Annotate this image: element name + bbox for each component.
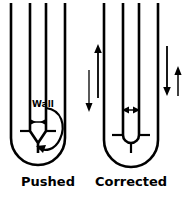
flow-arrow-up-left-head bbox=[94, 44, 102, 53]
panel-pushed: Wall Pushed bbox=[11, 3, 75, 189]
corrected-inner-tube bbox=[123, 3, 139, 143]
caption-corrected: Corrected bbox=[95, 174, 167, 189]
flow-arrow-down-right bbox=[163, 46, 171, 96]
flow-arrow-down-left bbox=[86, 70, 93, 112]
caption-pushed: Pushed bbox=[21, 174, 75, 189]
wall-label: Wall bbox=[32, 99, 54, 109]
figure-root: Wall Pushed bbox=[0, 0, 191, 198]
tube-comparison-diagram: Wall Pushed bbox=[0, 0, 191, 198]
panel-corrected: Corrected bbox=[86, 3, 182, 189]
corrected-outward-double-arrow bbox=[122, 107, 140, 114]
pushed-inward-double-arrow bbox=[29, 119, 47, 126]
flow-arrow-down-right-head bbox=[163, 87, 171, 96]
inward-arrowhead-left bbox=[40, 119, 47, 126]
flow-arrow-up-right bbox=[174, 66, 181, 96]
flow-arrow-up-left bbox=[94, 44, 102, 98]
flow-arrow-up-right-head bbox=[174, 66, 181, 75]
pushed-inner-tube-left-wall bbox=[30, 3, 38, 153]
flow-arrow-down-left-head bbox=[86, 103, 93, 112]
inward-arrowhead-right bbox=[29, 119, 36, 126]
